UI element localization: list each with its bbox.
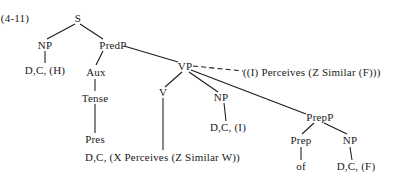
edge-s-np xyxy=(47,24,75,39)
node-np-prep: NP xyxy=(343,135,357,146)
edge-npprep-dcf xyxy=(350,147,352,160)
edge-predp-aux xyxy=(96,51,103,65)
edge-s-predp xyxy=(80,24,103,39)
edge-vp-gloss-dashed xyxy=(193,66,243,71)
edge-np-dci xyxy=(224,103,226,121)
edge-prepp-npprep xyxy=(324,123,347,134)
node-pres: Pres xyxy=(85,134,105,145)
node-of: of xyxy=(296,161,306,172)
syntax-tree-diagram: (4-11) S NP D,C, (H) PredP Aux Tense Pre… xyxy=(0,0,413,183)
node-prep: Prep xyxy=(291,135,312,146)
edge-predp-vp xyxy=(124,46,178,62)
node-dc-x-perceives: D,C, (X Perceives (Z Similar W)) xyxy=(85,152,240,163)
node-np-subject: NP xyxy=(38,40,52,51)
node-dc-h: D,C, (H) xyxy=(25,65,65,76)
node-dc-i: D,C, (I) xyxy=(210,122,246,133)
edge-prepp-prep xyxy=(302,123,314,134)
node-predp: PredP xyxy=(99,40,126,51)
node-vp: VP xyxy=(178,61,192,72)
node-prepp: PrepP xyxy=(306,112,333,123)
node-s: S xyxy=(75,13,81,24)
node-semantic-gloss: ((I) Perceives (Z Similar (F))) xyxy=(243,67,381,78)
node-aux: Aux xyxy=(86,67,106,78)
edge-vp-v xyxy=(165,72,182,87)
node-tense: Tense xyxy=(82,93,109,104)
figure-number-label: (4-11) xyxy=(1,13,29,24)
node-dc-f: D,C, (F) xyxy=(337,161,376,172)
node-np-object: NP xyxy=(214,92,228,103)
node-v: V xyxy=(159,87,167,98)
